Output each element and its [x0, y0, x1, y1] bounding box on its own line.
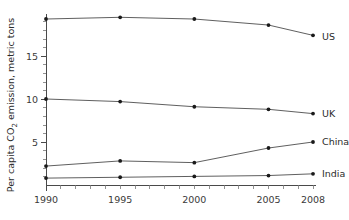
data-point — [118, 175, 122, 179]
data-point — [192, 17, 196, 21]
data-point — [267, 23, 271, 27]
y-axis-title-post: emission, metric tons — [5, 18, 16, 123]
y-tick-label-15: 15 — [26, 51, 38, 62]
data-point — [44, 17, 48, 21]
series-us — [44, 15, 315, 37]
y-axis-title-pre: Per capita CO — [5, 128, 16, 193]
series-label-uk: UK — [322, 108, 336, 119]
data-point — [311, 140, 315, 144]
series-label-india: India — [322, 168, 345, 179]
series-line-china — [46, 142, 313, 166]
y-axis: 15 10 5 — [26, 14, 46, 185]
data-point — [118, 100, 122, 104]
series-line-uk — [46, 99, 313, 114]
series-label-china: China — [322, 136, 349, 147]
series-line-india — [46, 174, 313, 178]
x-tick-label-1995: 1995 — [108, 194, 132, 205]
line-chart: Per capita CO2 emission, metric tons — [0, 0, 349, 220]
x-tick-label-2005: 2005 — [256, 194, 280, 205]
data-point — [311, 172, 315, 176]
data-point — [44, 164, 48, 168]
y-axis-title: Per capita CO2 emission, metric tons — [5, 18, 19, 192]
series-label-us: US — [322, 31, 335, 42]
series-uk — [44, 97, 315, 115]
series-label-group: US UK China India — [322, 31, 349, 179]
data-point — [192, 161, 196, 165]
series-line-us — [46, 17, 313, 35]
data-point — [192, 175, 196, 179]
data-point — [267, 146, 271, 150]
y-tick-label-10: 10 — [26, 94, 38, 105]
x-tick-label-2008: 2008 — [301, 194, 325, 205]
data-point — [44, 176, 48, 180]
data-point — [267, 174, 271, 178]
data-point — [44, 97, 48, 101]
data-point — [311, 112, 315, 116]
x-minor-ticks — [61, 185, 313, 189]
x-tick-label-1990: 1990 — [34, 194, 58, 205]
y-axis-title-group: Per capita CO2 emission, metric tons — [5, 18, 19, 192]
data-point — [267, 107, 271, 111]
data-point — [311, 33, 315, 37]
y-tick-label-5: 5 — [32, 137, 38, 148]
data-point — [118, 15, 122, 19]
x-tick-label-2000: 2000 — [182, 194, 206, 205]
data-point — [192, 105, 196, 109]
chart-figure: Per capita CO2 emission, metric tons — [0, 0, 349, 220]
series-china — [44, 140, 315, 168]
plot-area — [44, 15, 315, 180]
data-point — [118, 159, 122, 163]
series-india — [44, 172, 315, 180]
x-axis: 1990 1995 2000 2005 2008 — [34, 185, 325, 205]
